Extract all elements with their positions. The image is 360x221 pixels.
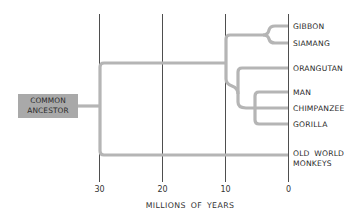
branch-lesser-apes-stem <box>226 35 263 63</box>
branch-hominoid-stem <box>100 63 226 106</box>
branch-siamang <box>263 35 288 43</box>
branch-orangutan <box>238 68 288 94</box>
ancestor-label-line1: COMMON <box>18 96 78 106</box>
taxon-label-chimpanzee: CHIMPANZEE <box>293 104 345 113</box>
taxon-label-gibbon: GIBBON <box>293 22 324 31</box>
branch-old-world-monkeys <box>100 106 288 155</box>
axis-tick-30: 30 <box>94 185 104 194</box>
branch-great-apes-stem <box>226 63 238 94</box>
taxon-label-man: MAN <box>293 88 311 97</box>
time-gridlines <box>100 14 289 182</box>
tree-branches <box>78 26 288 155</box>
axis-tick-20: 20 <box>157 185 167 194</box>
taxon-label-old-world-monkeys-line2: MONKEYS <box>293 159 332 168</box>
taxon-label-siamang: SIAMANG <box>293 39 330 48</box>
branch-gorilla <box>255 108 288 124</box>
phylogeny-diagram: COMMON ANCESTOR GIBBON SIAMANG ORANGUTAN… <box>0 0 360 221</box>
common-ancestor-box: COMMON ANCESTOR <box>18 94 78 118</box>
ancestor-label-line2: ANCESTOR <box>18 106 78 116</box>
branch-african-apes-stem <box>238 94 255 108</box>
branch-man <box>255 92 288 108</box>
axis-title: MILLIONS OF YEARS <box>0 201 360 210</box>
taxon-label-gorilla: GORILLA <box>293 120 328 129</box>
taxon-label-orangutan: ORANGUTAN <box>293 64 343 73</box>
axis-tick-0: 0 <box>286 185 291 194</box>
taxon-label-old-world-monkeys-line1: OLD WORLD <box>293 149 344 158</box>
axis-tick-10: 10 <box>220 185 230 194</box>
branch-gibbon <box>263 26 288 35</box>
